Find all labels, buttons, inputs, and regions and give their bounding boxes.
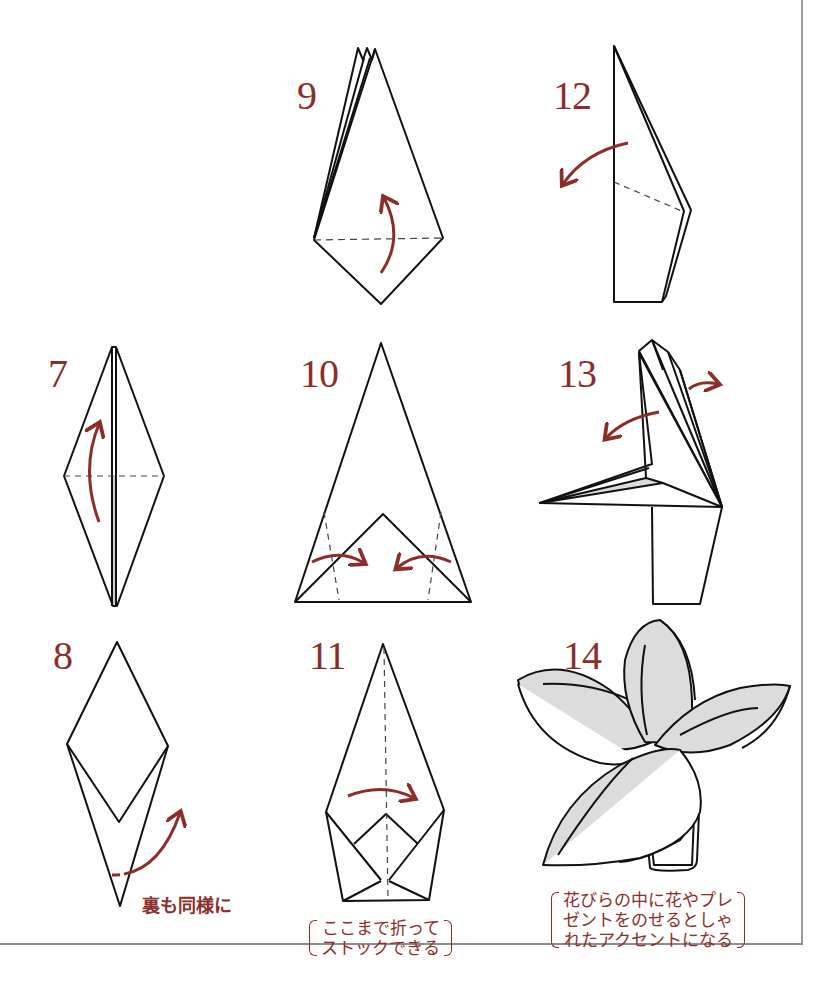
- step-11-note-line-2: ストックできる: [321, 938, 440, 958]
- step-14-note-line-3: れたアクセントになる: [563, 930, 733, 950]
- step-7-diagram: [64, 347, 164, 606]
- step-14-note-line-1: 花びらの中に花やプレ: [563, 890, 733, 910]
- step-13-diagram: [540, 340, 722, 604]
- step-14-note: 花びらの中に花やプレ ゼントをのせるとしゃ れたアクセントになる: [551, 890, 745, 950]
- step-10-diagram: [295, 343, 471, 602]
- step-13-fold-arrow-right-icon: [689, 383, 718, 389]
- origami-instruction-page: 9 12 7 10 13 8 11 14: [0, 0, 831, 995]
- diagrams-canvas: [0, 0, 831, 995]
- step-12-diagram: [614, 46, 691, 302]
- step-11-diagram: [326, 644, 444, 901]
- step-11-note-line-1: ここまで折って: [321, 918, 440, 938]
- step-14-flower-diagram: [518, 620, 790, 871]
- step-8-note: 裏も同様に: [142, 891, 232, 917]
- step-8-diagram: [67, 642, 168, 906]
- step-11-note: ここまで折って ストックできる: [309, 918, 452, 958]
- step-9-diagram: [314, 48, 443, 304]
- step-14-note-line-2: ゼントをのせるとしゃ: [563, 910, 733, 930]
